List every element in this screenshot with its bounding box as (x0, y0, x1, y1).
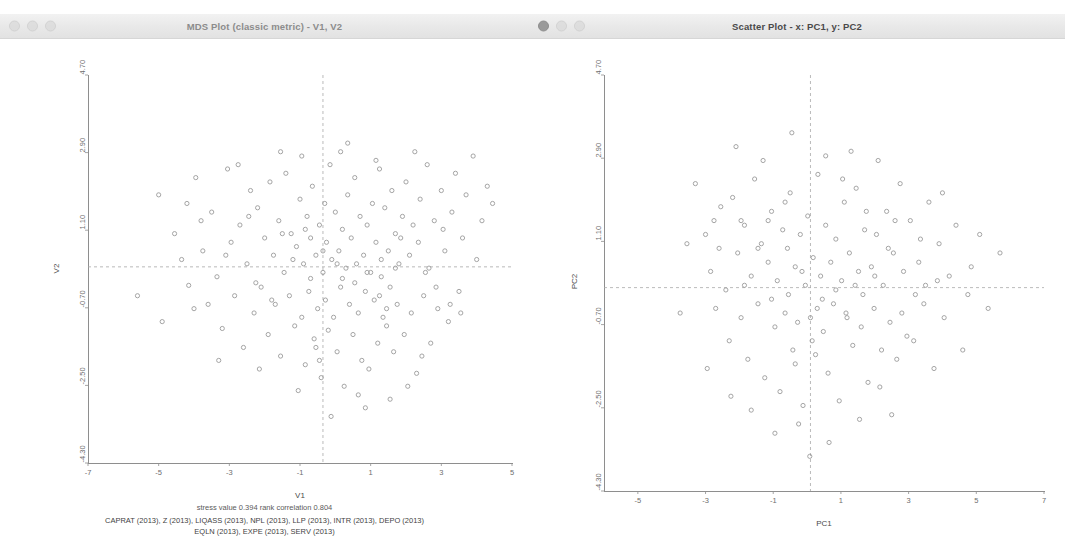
data-point (301, 262, 305, 266)
data-point (881, 283, 885, 287)
data-point (791, 348, 795, 352)
data-point (353, 281, 357, 285)
data-point (705, 366, 709, 370)
data-point (316, 307, 320, 311)
data-point (278, 354, 282, 358)
data-point (935, 279, 939, 283)
data-point (879, 348, 883, 352)
data-point (363, 406, 367, 410)
data-point (793, 265, 797, 269)
data-point (300, 315, 304, 319)
data-point (349, 236, 353, 240)
data-point (801, 403, 805, 407)
data-point (450, 210, 454, 214)
data-point (724, 288, 728, 292)
close-icon[interactable] (538, 21, 549, 32)
data-point (256, 206, 260, 210)
data-point (388, 397, 392, 401)
data-point (252, 311, 256, 315)
data-point (135, 294, 139, 298)
zoom-icon[interactable] (574, 21, 585, 32)
data-point (333, 210, 337, 214)
x-tick-label: -7 (85, 468, 92, 477)
data-point (947, 274, 951, 278)
data-point (314, 253, 318, 257)
data-point (289, 232, 293, 236)
data-point (749, 408, 753, 412)
data-point (927, 200, 931, 204)
data-point (354, 262, 358, 266)
data-point (329, 414, 333, 418)
data-point (339, 285, 343, 289)
data-point (986, 306, 990, 310)
data-point (397, 262, 401, 266)
data-point (347, 302, 351, 306)
data-point (727, 339, 731, 343)
data-point (854, 186, 858, 190)
data-point (471, 154, 475, 158)
mds-window-controls (9, 21, 56, 32)
data-point (761, 158, 765, 162)
mds-plot-area[interactable]: -7-5-3-11354.702.901.10-0.70-2.50-4.30 V… (0, 39, 529, 537)
data-point (346, 193, 350, 197)
data-point (773, 431, 777, 435)
data-point (806, 214, 810, 218)
data-point (480, 219, 484, 223)
data-point (766, 219, 770, 223)
data-point (485, 184, 489, 188)
data-point (160, 320, 164, 324)
data-point (714, 306, 718, 310)
data-point (192, 307, 196, 311)
data-point (475, 257, 479, 261)
data-point (709, 269, 713, 273)
scatter-y-axis-title: PC2 (570, 274, 579, 290)
data-point (323, 298, 327, 302)
minimize-icon[interactable] (556, 21, 567, 32)
data-point (411, 223, 415, 227)
data-point (786, 292, 790, 296)
data-point (215, 275, 219, 279)
zoom-icon[interactable] (45, 21, 56, 32)
data-point (381, 315, 385, 319)
mds-window-title: MDS Plot (classic metric) - V1, V2 (0, 21, 529, 32)
x-tick-label: 3 (907, 496, 911, 505)
data-point (300, 154, 304, 158)
scatter-plot-area[interactable]: -5-3-113574.702.901.10-0.70-2.50-4.30 PC… (529, 39, 1065, 537)
data-point (840, 279, 844, 283)
data-point (257, 367, 261, 371)
data-point (448, 302, 452, 306)
data-point (459, 311, 463, 315)
data-point (386, 249, 390, 253)
data-point (353, 176, 357, 180)
close-icon[interactable] (9, 21, 20, 32)
data-point (259, 285, 263, 289)
mds-titlebar[interactable]: MDS Plot (classic metric) - V1, V2 (0, 14, 529, 39)
data-point (404, 180, 408, 184)
data-point (372, 298, 376, 302)
data-point (374, 158, 378, 162)
data-point (263, 236, 267, 240)
scatter-scatter-canvas (529, 39, 1065, 537)
data-point (309, 276, 313, 280)
mds-x-axis-title: V1 (295, 491, 305, 500)
scatter-window-controls (538, 21, 585, 32)
data-point (866, 380, 870, 384)
x-tick-label: -5 (155, 468, 162, 477)
data-point (439, 188, 443, 192)
data-point (233, 294, 237, 298)
data-point (847, 251, 851, 255)
data-point (778, 390, 782, 394)
data-point (395, 302, 399, 306)
data-point (335, 350, 339, 354)
data-point (908, 219, 912, 223)
data-point (187, 283, 191, 287)
data-point (842, 200, 846, 204)
scatter-titlebar[interactable]: Scatter Plot - x: PC1, y: PC2 (529, 14, 1065, 39)
data-point (781, 228, 785, 232)
data-point (245, 262, 249, 266)
data-point (254, 281, 258, 285)
data-point (912, 339, 916, 343)
data-point (932, 366, 936, 370)
minimize-icon[interactable] (27, 21, 38, 32)
data-point (384, 324, 388, 328)
